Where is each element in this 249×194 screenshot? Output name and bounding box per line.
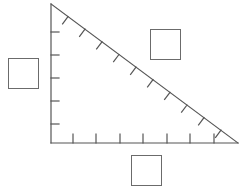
hypotenuse-tick <box>80 29 85 36</box>
hypotenuse-tick <box>199 118 204 125</box>
answer-box-left[interactable] <box>8 58 39 89</box>
hypotenuse-tick-marks <box>63 17 221 138</box>
hypotenuse-tick <box>63 17 68 24</box>
horizontal-leg-tick-marks <box>73 134 214 143</box>
diagram-canvas <box>0 0 249 194</box>
answer-box-top-right[interactable] <box>150 29 181 60</box>
hypotenuse-tick <box>131 67 136 74</box>
hypotenuse-tick <box>148 80 153 87</box>
vertical-leg-tick-marks <box>51 32 59 124</box>
hypotenuse-tick <box>97 42 102 49</box>
triangle-outline <box>51 4 238 143</box>
hypotenuse-line <box>51 4 238 143</box>
hypotenuse-tick <box>165 92 170 99</box>
answer-box-bottom[interactable] <box>131 155 162 186</box>
hypotenuse-tick <box>216 130 221 137</box>
hypotenuse-tick <box>182 105 187 112</box>
hypotenuse-tick <box>114 55 119 62</box>
right-triangle-figure <box>0 0 249 194</box>
